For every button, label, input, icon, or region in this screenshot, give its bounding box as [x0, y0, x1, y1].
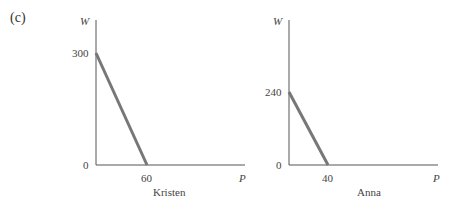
chart-anna: W 240 0 40 P Anna — [265, 15, 440, 198]
chart-caption: Anna — [357, 186, 381, 198]
data-line-anna — [289, 92, 328, 165]
panel-label: (c) — [10, 10, 26, 26]
x-tick-40: 40 — [322, 172, 334, 184]
x-axis-label: P — [238, 172, 246, 184]
chart-kristen: W 300 0 60 P Kristen — [72, 15, 246, 198]
origin-label: 0 — [276, 159, 282, 171]
y-axis-label: W — [80, 15, 90, 27]
origin-label: 0 — [83, 159, 89, 171]
y-tick-300: 300 — [72, 47, 89, 59]
chart-caption: Kristen — [153, 186, 186, 198]
y-axis-label: W — [273, 15, 283, 27]
data-line-kristen — [96, 53, 147, 165]
y-tick-240: 240 — [265, 86, 282, 98]
x-axis-label: P — [432, 172, 440, 184]
x-tick-60: 60 — [141, 172, 153, 184]
